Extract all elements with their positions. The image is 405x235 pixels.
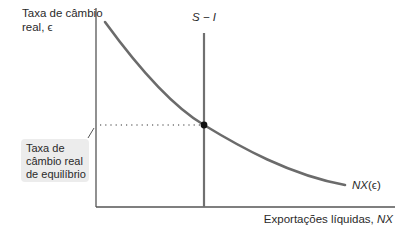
net-exports-curve — [105, 22, 345, 185]
equilibrium-point — [201, 122, 208, 129]
x-axis-label-var: NX — [377, 213, 393, 225]
equilibrium-label-line3: de equilíbrio — [26, 168, 89, 181]
equilibrium-leader-line — [88, 128, 94, 138]
y-axis-label: Taxa de câmbio real, ϵ — [22, 6, 103, 34]
equilibrium-label-line2: câmbio real — [26, 155, 89, 168]
y-axis-label-line1: Taxa de câmbio — [22, 6, 103, 20]
y-axis-label-line2: real, ϵ — [22, 20, 103, 34]
nx-curve-label-arg: (ϵ) — [368, 179, 381, 191]
equilibrium-label-line1: Taxa de — [26, 142, 89, 155]
x-axis-label: Exportações líquidas, NX — [264, 213, 393, 225]
diagram-canvas — [0, 0, 405, 235]
x-axis-label-text: Exportações líquidas, — [264, 213, 377, 225]
equilibrium-label-box: Taxa de câmbio real de equilíbrio — [21, 139, 89, 182]
nx-curve-label: NX(ϵ) — [352, 179, 381, 191]
nx-curve-label-var: NX — [352, 179, 368, 191]
s-minus-i-label: S − I — [192, 11, 216, 23]
